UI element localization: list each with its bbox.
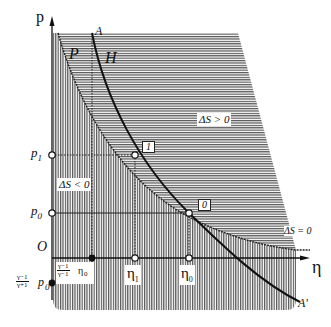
state1-box: 1 [142,141,155,153]
region-positive-label: ΔS > 0 [197,113,231,126]
p-axis-arrow [50,16,55,26]
point-eta0 [186,255,192,261]
p0-label: p0 [31,204,42,221]
point-state0 [186,210,192,216]
point-eta1 [132,255,138,261]
point-state1 [132,152,138,158]
curve-h-end-label: A' [298,297,308,309]
eta-axis-label: η [312,258,321,276]
point-p0 [49,210,55,216]
eta1-label: η1 [125,265,141,285]
region-zero-label: ΔS = 0 [284,226,312,236]
eta-axis-arrow [300,256,310,261]
p-axis-label: p [36,9,44,25]
point-eta-min [89,255,96,262]
curve-h-label: H [105,50,117,66]
eta-min-label: γ−1 γ−1 η0 [56,262,94,284]
origin-label: O [37,240,47,254]
curve-p-label: P [69,46,79,62]
state0-box: 0 [198,199,211,211]
curve-h-start-label: A [95,25,102,37]
p-min-label: γ−1 γ+1 p0 [16,272,50,294]
p1-label: p1 [31,146,42,163]
point-p1 [49,152,55,158]
region-negative-label: ΔS < 0 [57,178,91,191]
eta0-label: η0 [179,265,195,285]
